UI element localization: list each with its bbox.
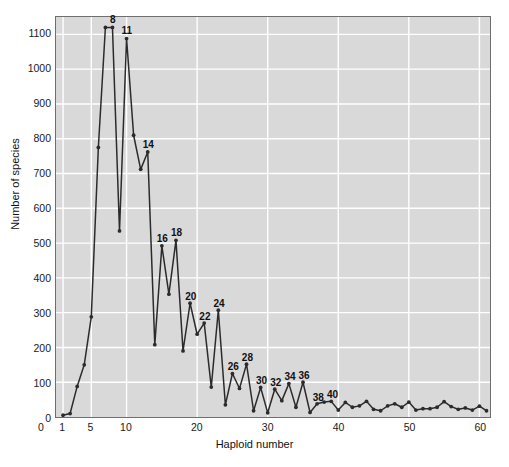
data-point-marker	[428, 407, 432, 411]
data-point-marker	[104, 26, 108, 30]
data-point-marker	[414, 408, 418, 412]
data-point-marker	[365, 399, 369, 403]
data-point-marker	[266, 411, 270, 415]
data-point-marker	[181, 349, 185, 353]
data-point-marker	[393, 402, 397, 406]
data-point-marker	[231, 372, 235, 376]
data-point-marker	[343, 401, 347, 405]
data-point-marker	[160, 244, 164, 248]
data-point-marker	[188, 301, 192, 305]
data-point-marker	[82, 363, 86, 367]
x-axis-tick-label: 50	[404, 421, 416, 433]
data-point-marker	[223, 403, 227, 407]
y-axis-tick-labels: 010020030040050060070080090010001100	[0, 0, 51, 467]
data-point-marker	[456, 407, 460, 411]
x-axis-tick-label: 0	[38, 421, 44, 433]
data-point-marker	[259, 386, 263, 390]
x-axis-tick-label: 10	[120, 421, 132, 433]
data-point-marker	[308, 411, 312, 415]
data-point-marker	[478, 404, 482, 408]
y-axis-tick-label: 200	[3, 343, 51, 354]
plot-svg	[56, 17, 490, 417]
data-point-marker	[273, 387, 277, 391]
data-point-marker	[280, 399, 284, 403]
x-axis-tick-label: 30	[262, 421, 274, 433]
data-point-marker	[167, 292, 171, 296]
data-point-marker	[118, 229, 122, 233]
x-axis-tick-label: 1	[59, 421, 65, 433]
data-point-marker	[153, 343, 157, 347]
data-point-marker	[139, 167, 143, 171]
data-point-marker	[470, 408, 474, 412]
y-axis-tick-label: 300	[3, 308, 51, 319]
data-point-marker	[252, 409, 256, 413]
x-axis-tick-label: 20	[191, 421, 203, 433]
data-point-marker	[379, 409, 383, 413]
data-point-marker	[96, 146, 100, 150]
data-point-marker	[442, 400, 446, 404]
data-point-marker	[449, 405, 453, 409]
x-axis-tick-labels: 015102030405060	[0, 421, 509, 437]
data-point-marker	[315, 402, 319, 406]
x-axis-tick-label: 40	[333, 421, 345, 433]
data-point-marker	[329, 399, 333, 403]
x-axis-tick-label: 60	[475, 421, 487, 433]
data-point-marker	[174, 238, 178, 242]
data-point-marker	[216, 308, 220, 312]
data-point-marker	[89, 315, 93, 319]
data-point-marker	[245, 362, 249, 366]
y-axis-tick-label: 1000	[3, 63, 51, 74]
y-axis-title: Number of species	[9, 84, 21, 284]
figure-container: 8111416182022242628303234363840 01002003…	[0, 0, 509, 467]
data-point-marker	[125, 37, 129, 41]
data-point-marker	[485, 409, 489, 413]
data-point-marker	[195, 332, 199, 336]
data-point-marker	[209, 385, 213, 389]
data-point-marker	[294, 405, 298, 409]
plot-panel: 8111416182022242628303234363840	[55, 16, 491, 418]
x-axis-title: Haploid number	[0, 438, 509, 450]
y-axis-tick-label: 1100	[3, 28, 51, 39]
data-point-marker	[358, 404, 362, 408]
data-point-marker	[386, 404, 390, 408]
data-point-marker	[435, 405, 439, 409]
gridlines-horizontal	[56, 34, 490, 382]
data-point-marker	[61, 413, 65, 417]
data-point-marker	[287, 382, 291, 386]
data-point-marker	[372, 407, 376, 411]
data-point-marker	[132, 133, 136, 137]
data-point-marker	[407, 400, 411, 404]
data-point-marker	[421, 407, 425, 411]
data-point-marker	[351, 405, 355, 409]
x-axis-tick-label: 5	[88, 421, 94, 433]
data-point-marker	[400, 405, 404, 409]
data-point-marker	[146, 150, 150, 154]
data-point-marker	[75, 385, 79, 389]
data-point-marker	[463, 406, 467, 410]
data-point-marker	[301, 380, 305, 384]
data-point-marker	[111, 26, 115, 30]
data-point-marker	[322, 400, 326, 404]
y-axis-tick-label: 100	[3, 378, 51, 389]
data-point-marker	[68, 412, 72, 416]
data-point-marker	[202, 321, 206, 325]
data-point-marker	[336, 408, 340, 412]
data-point-marker	[238, 387, 242, 391]
